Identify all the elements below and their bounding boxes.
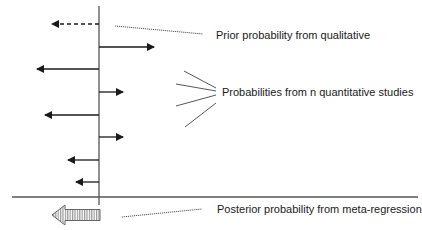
prior-probability-group	[52, 24, 203, 34]
quantitative-study-arrows	[37, 47, 154, 182]
quantitative-study-callout-lines	[176, 71, 216, 127]
study-callout-line-3	[176, 95, 216, 106]
study-callout-line-4	[185, 103, 216, 127]
prior-probability-label: Prior probability from qualitative	[216, 29, 370, 42]
quantitative-studies-label: Probabilities from n quantitative studie…	[222, 86, 413, 99]
posterior-probability-label: Posterior probability from meta-regressi…	[217, 203, 422, 216]
study-callout-line-1	[184, 71, 216, 88]
posterior-probability-group	[52, 205, 202, 225]
posterior-callout-line	[122, 209, 202, 217]
posterior-striped-arrow-icon	[52, 205, 100, 225]
prior-callout-line	[115, 26, 203, 34]
